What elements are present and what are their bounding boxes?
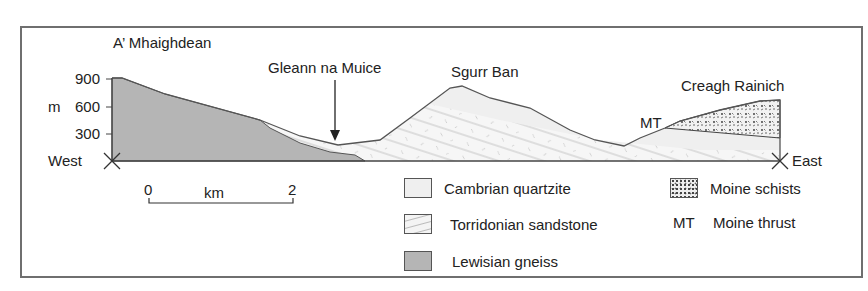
legend-lewisian-gneiss: Lewisian gneiss [404, 251, 558, 271]
label-west: West [48, 152, 82, 169]
scale-end: 2 [288, 181, 296, 198]
quartzite-swatch-icon [404, 178, 432, 198]
label-gleann-na-muice: Gleann na Muice [268, 59, 381, 76]
label-sgurr-ban: Sgurr Ban [451, 63, 519, 80]
legend-moine-thrust: MT Moine thrust [673, 214, 796, 231]
scale-start: 0 [144, 181, 152, 198]
tick-300: 300 [60, 125, 100, 142]
label-a-mhaighdean: A’ Mhaighdean [113, 34, 211, 51]
label-mt: MT [640, 114, 662, 131]
legend-torridonian-sandstone: Torridonian sandstone [404, 214, 598, 234]
axis-unit: m [48, 98, 61, 115]
legend-moine-schists: Moine schists [670, 178, 801, 198]
schist-swatch-icon [670, 178, 698, 198]
arrow-down-icon [330, 130, 340, 141]
tick-600: 600 [60, 98, 100, 115]
gneiss-swatch-icon [404, 251, 432, 271]
scale-unit: km [204, 184, 224, 201]
label-creagh-rainich: Creagh Rainich [681, 77, 784, 94]
tick-900: 900 [60, 70, 100, 87]
sandstone-swatch-icon [404, 214, 432, 234]
label-east: East [792, 152, 822, 169]
legend-cambrian-quartzite: Cambrian quartzite [404, 178, 571, 198]
